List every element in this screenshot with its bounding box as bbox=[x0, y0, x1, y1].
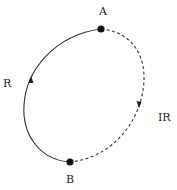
point-a bbox=[97, 25, 104, 32]
label-b: B bbox=[66, 173, 74, 186]
arrow-up-icon bbox=[29, 76, 34, 83]
path-r bbox=[24, 29, 101, 162]
label-a: A bbox=[98, 5, 108, 18]
path-ir bbox=[70, 29, 144, 162]
cycle-diagram: A B R IR bbox=[0, 0, 177, 190]
point-b bbox=[66, 158, 73, 165]
label-r: R bbox=[3, 77, 12, 90]
label-ir: IR bbox=[158, 111, 171, 124]
arrow-down-icon bbox=[137, 101, 142, 108]
